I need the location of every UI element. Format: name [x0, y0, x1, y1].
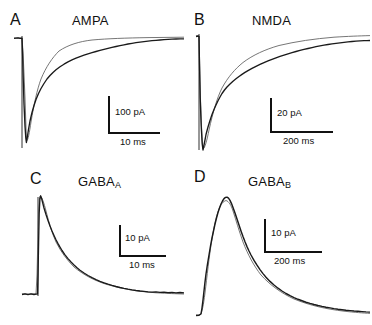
scalebar-vertical-nmda	[270, 98, 272, 133]
scalebar-vertical-label-nmda: 20 pA	[277, 108, 302, 118]
scalebar-vertical-label-gaba-b: 10 pA	[271, 228, 296, 238]
scalebar-horizontal-label-gaba-b: 200 ms	[274, 256, 305, 266]
fit-curve-gaba-a	[22, 196, 184, 294]
panel-d-gaba-b: D GABAB 10 pA 200 ms	[186, 163, 372, 325]
scalebar-horizontal-label-nmda: 200 ms	[283, 136, 314, 146]
trace-plot-ampa	[0, 0, 186, 162]
data-trace-ampa	[14, 38, 184, 143]
scalebar-vertical-label-ampa: 100 pA	[115, 107, 145, 117]
panel-a-ampa: A AMPA 100 pA 10 ms	[0, 0, 186, 162]
scalebar-horizontal-ampa	[108, 132, 160, 134]
figure-panel-grid: A AMPA 100 pA 10 ms B NMDA	[0, 0, 372, 325]
panel-c-gaba-a: C GABAA 10 pA 10 ms	[0, 163, 186, 325]
scalebar-horizontal-label-ampa: 10 ms	[120, 137, 146, 147]
trace-plot-gaba-b	[186, 163, 372, 325]
scalebar-vertical-label-gaba-a: 10 pA	[125, 233, 150, 243]
scalebar-horizontal-nmda	[270, 131, 333, 133]
panel-b-nmda: B NMDA 20 pA 200 ms	[186, 0, 372, 162]
scalebar-horizontal-gaba-b	[264, 251, 322, 253]
scalebar-vertical-ampa	[108, 96, 110, 134]
fit-curve-ampa	[14, 37, 184, 141]
scalebar-horizontal-gaba-a	[119, 255, 166, 257]
trace-plot-gaba-a	[0, 163, 186, 325]
scalebar-vertical-gaba-b	[264, 219, 266, 253]
scalebar-horizontal-label-gaba-a: 10 ms	[129, 260, 155, 270]
scalebar-vertical-gaba-a	[119, 225, 121, 257]
trace-plot-nmda	[186, 0, 372, 162]
